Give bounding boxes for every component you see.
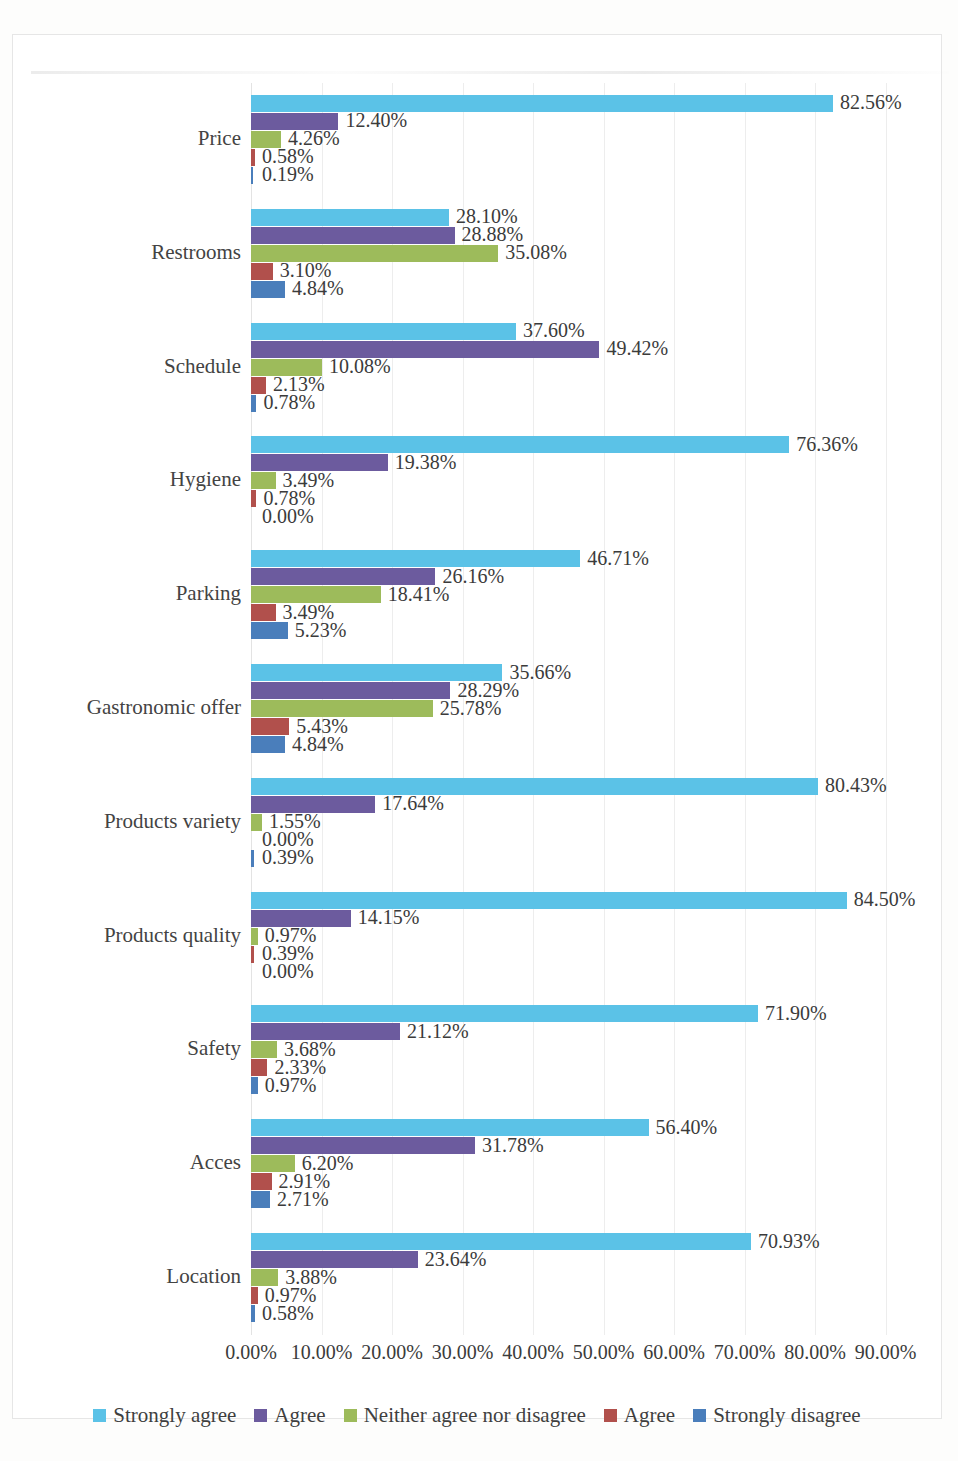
bar-row: 0.39% [251, 850, 956, 867]
bar-strongly-disagree [251, 850, 254, 867]
x-tick-label: 20.00% [361, 1341, 423, 1364]
bar-row: 10.08% [251, 359, 956, 376]
bar-row: 2.91% [251, 1173, 956, 1190]
bar-row: 28.88% [251, 227, 956, 244]
bar-row: 23.64% [251, 1251, 956, 1268]
category-group: Price82.56%12.40%4.26%0.58%0.19% [251, 95, 956, 185]
bar-value-label: 70.93% [751, 1230, 820, 1253]
category-label: Location [166, 1264, 241, 1289]
category-group: Hygiene76.36%19.38%3.49%0.78%0.00% [251, 436, 956, 526]
category-label: Restrooms [151, 240, 241, 265]
bar-row: 0.78% [251, 395, 956, 412]
bar-value-label: 0.00% [255, 505, 314, 528]
bar-agree [251, 1173, 272, 1190]
bar-value-label: 84.50% [847, 888, 916, 911]
bar-agree [251, 227, 455, 244]
x-tick-label: 30.00% [432, 1341, 494, 1364]
bar-strongly-disagree [251, 736, 285, 753]
bar-value-label: 46.71% [580, 547, 649, 570]
bar-row: 26.16% [251, 568, 956, 585]
bar-row: 28.29% [251, 682, 956, 699]
bar-row: 4.26% [251, 131, 956, 148]
bar-row: 35.66% [251, 664, 956, 681]
bar-agree [251, 946, 254, 963]
bar-value-label: 4.84% [285, 277, 344, 300]
bar-row: 5.23% [251, 622, 956, 639]
bar-strongly-disagree [251, 622, 288, 639]
bar-strongly-agree [251, 209, 449, 226]
category-label: Gastronomic offer [87, 695, 241, 720]
bar-row: 4.84% [251, 281, 956, 298]
bar-value-label: 17.64% [375, 792, 444, 815]
category-label: Safety [187, 1036, 241, 1061]
bar-agree [251, 682, 450, 699]
legend-swatch-icon [344, 1409, 357, 1422]
category-group: Products quality84.50%14.15%0.97%0.39%0.… [251, 892, 956, 982]
bar-value-label: 49.42% [599, 337, 668, 360]
bar-row: 14.15% [251, 910, 956, 927]
bar-row: 0.00% [251, 964, 956, 981]
bar-row: 28.10% [251, 209, 956, 226]
bar-value-label: 31.78% [475, 1134, 544, 1157]
legend-label: Agree [274, 1403, 325, 1428]
category-label: Products variety [104, 809, 241, 834]
category-group: Safety71.90%21.12%3.68%2.33%0.97% [251, 1005, 956, 1095]
category-label: Schedule [164, 354, 241, 379]
bar-row: 0.58% [251, 1305, 956, 1322]
legend-item[interactable]: Strongly agree [93, 1403, 236, 1428]
legend-swatch-icon [254, 1409, 267, 1422]
bar-value-label: 0.00% [255, 960, 314, 983]
bar-row: 76.36% [251, 436, 956, 453]
bar-row: 3.49% [251, 472, 956, 489]
category-label: Parking [176, 581, 241, 606]
bar-row: 21.12% [251, 1023, 956, 1040]
legend-item[interactable]: Agree [254, 1403, 325, 1428]
bar-value-label: 10.08% [322, 355, 391, 378]
bar-row: 3.88% [251, 1269, 956, 1286]
bar-strongly-disagree [251, 167, 253, 184]
x-tick-label: 0.00% [225, 1341, 277, 1364]
bar-value-label: 71.90% [758, 1002, 827, 1025]
bar-row: 6.20% [251, 1155, 956, 1172]
bar-row: 0.97% [251, 928, 956, 945]
legend-label: Strongly disagree [713, 1403, 861, 1428]
bar-row: 35.08% [251, 245, 956, 262]
bar-value-label: 35.08% [498, 241, 567, 264]
chart-legend: Strongly agreeAgreeNeither agree nor dis… [13, 1403, 941, 1428]
legend-label: Agree [624, 1403, 675, 1428]
legend-item[interactable]: Agree [604, 1403, 675, 1428]
bar-strongly-agree [251, 1119, 649, 1136]
bar-row: 5.43% [251, 718, 956, 735]
bar-row: 0.97% [251, 1287, 956, 1304]
bar-row: 0.97% [251, 1077, 956, 1094]
bar-strongly-agree [251, 550, 580, 567]
bar-strongly-disagree [251, 1077, 258, 1094]
plot-area: Price82.56%12.40%4.26%0.58%0.19%Restroom… [251, 83, 956, 1335]
bar-agree [251, 1137, 475, 1154]
bar-strongly-agree [251, 323, 516, 340]
bar-agree [251, 341, 599, 358]
bar-row: 0.78% [251, 490, 956, 507]
bar-value-label: 25.78% [433, 697, 502, 720]
x-tick-label: 60.00% [643, 1341, 705, 1364]
bar-row: 12.40% [251, 113, 956, 130]
legend-item[interactable]: Neither agree nor disagree [344, 1403, 586, 1428]
x-tick-label: 10.00% [291, 1341, 353, 1364]
bar-value-label: 37.60% [516, 319, 585, 342]
category-label: Acces [190, 1150, 241, 1175]
legend-item[interactable]: Strongly disagree [693, 1403, 861, 1428]
legend-swatch-icon [93, 1409, 106, 1422]
category-group: Products variety80.43%17.64%1.55%0.00%0.… [251, 778, 956, 868]
bar-strongly-agree [251, 892, 847, 909]
category-label: Price [198, 126, 241, 151]
x-tick-label: 50.00% [573, 1341, 635, 1364]
bar-value-label: 19.38% [388, 451, 457, 474]
x-axis: 0.00%10.00%20.00%30.00%40.00%50.00%60.00… [251, 1341, 956, 1371]
bar-row: 2.71% [251, 1191, 956, 1208]
bar-strongly-disagree [251, 1191, 270, 1208]
bar-row: 71.90% [251, 1005, 956, 1022]
bar-row: 0.19% [251, 167, 956, 184]
category-group: Acces56.40%31.78%6.20%2.91%2.71% [251, 1119, 956, 1209]
bar-value-label: 2.71% [270, 1188, 329, 1211]
bar-row: 56.40% [251, 1119, 956, 1136]
